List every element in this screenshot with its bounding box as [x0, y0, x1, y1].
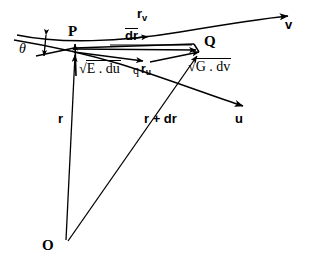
r-v-label: rv [137, 7, 147, 23]
dr-label: dr [125, 28, 138, 42]
r-u-label: ru [141, 63, 151, 77]
sqrt-g-dv-term: √G . dv [188, 60, 231, 74]
theta-angle-line [36, 48, 74, 56]
dr-diagonal-vector [74, 49, 196, 50]
point-label-p: P [68, 24, 77, 39]
theta-label: θ [19, 42, 26, 56]
r-v-label-subscript: v [142, 13, 147, 23]
parallelogram-right-edge [194, 44, 199, 52]
sqrt-e-du-term: √E . du [79, 62, 121, 76]
stray-mark-q: q [133, 64, 139, 76]
sqrt-e-radicand: E . du [86, 60, 121, 76]
v-coordinate-curve [17, 16, 288, 41]
r-vector-label: r [58, 112, 63, 125]
point-label-o: O [42, 238, 54, 253]
position-vector-r [66, 55, 75, 240]
v-curve-label: v [285, 18, 292, 31]
sqrt-g-radicand: G . dv [195, 58, 232, 74]
u-curve-label: u [235, 112, 243, 125]
position-vector-r-plus-dr [68, 56, 197, 241]
r-u-label-subscript: u [146, 67, 151, 77]
dr-label-text: dr [125, 28, 138, 42]
point-label-q: Q [204, 34, 216, 49]
diagram-canvas [0, 0, 313, 263]
differential-geometry-figure: P Q O θ rv dr √E . du q ru √G . dv v u r… [0, 0, 313, 263]
r-plus-dr-vector-label: r + dr [144, 112, 177, 125]
